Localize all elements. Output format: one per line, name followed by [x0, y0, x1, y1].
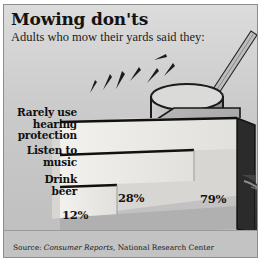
source-note: Source: Consumer Reports, National Resea… [13, 243, 214, 252]
infographic-mowing-donts: Mowing don'ts Adults who mow their yards… [0, 0, 261, 262]
bar-label-1-line-0: Listen to [4, 145, 77, 157]
bar-value-2: 12% [62, 208, 88, 222]
bar-label-1: Listen to music [4, 145, 77, 168]
bar-label-0: Rarely use hearing protection [4, 107, 77, 142]
bar-label-2-line-1: beer [4, 186, 77, 198]
source-prefix: Source: [13, 243, 41, 252]
bar-label-1-line-1: music [4, 157, 77, 169]
bar-value-0: 79% [200, 192, 226, 206]
bar-label-2: Drink beer [4, 174, 77, 197]
source-publication: Consumer Reports [44, 243, 113, 252]
bar-label-2-line-0: Drink [4, 174, 77, 186]
infographic-frame: Mowing don'ts Adults who mow their yards… [3, 4, 258, 258]
bar-label-0-line-0: Rarely use [4, 107, 77, 119]
category-labels: Rarely use hearing protection Listen to … [4, 5, 257, 257]
bar-label-0-line-2: protection [4, 130, 77, 142]
source-suffix: , National Research Center [113, 243, 214, 252]
bar-value-1: 28% [118, 191, 144, 205]
